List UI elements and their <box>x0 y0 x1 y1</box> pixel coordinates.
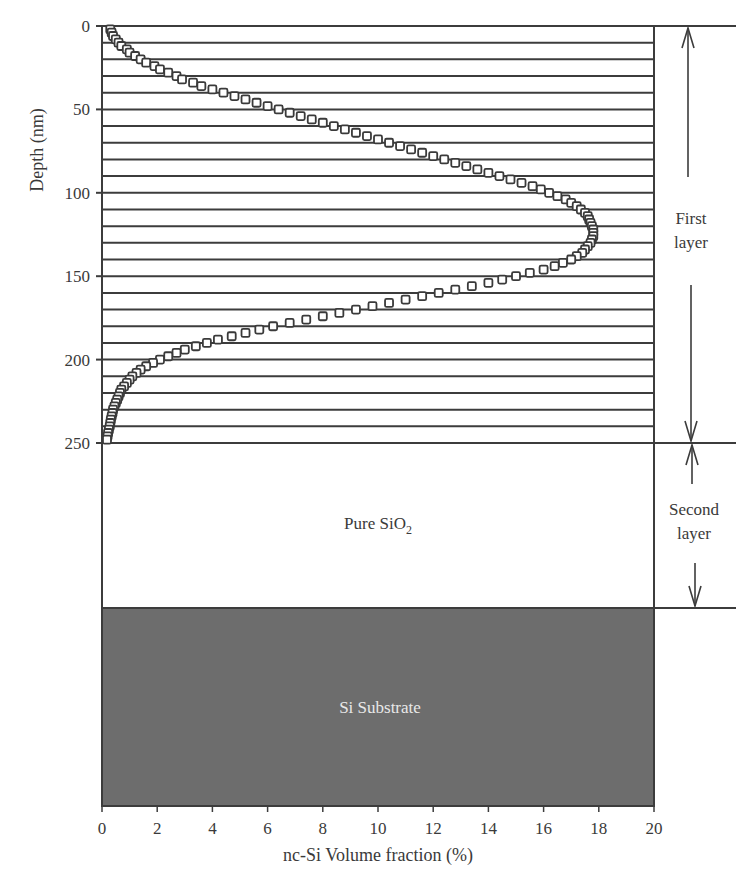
data-point-marker <box>484 279 492 287</box>
data-point-marker <box>418 149 426 157</box>
data-point-marker <box>286 319 294 327</box>
data-point-marker <box>473 165 481 173</box>
data-point-marker <box>551 262 559 270</box>
layer-annotations <box>682 28 701 606</box>
data-point-marker <box>484 169 492 177</box>
data-point-marker <box>335 309 343 317</box>
data-point-marker <box>302 316 310 324</box>
data-point-marker <box>189 79 197 87</box>
data-point-marker <box>418 292 426 300</box>
data-point-marker <box>319 119 327 127</box>
y-axis-title: Depth (nm) <box>27 108 48 191</box>
data-point-marker <box>537 185 545 193</box>
x-tick-label: 18 <box>590 819 607 838</box>
data-point-marker <box>506 175 514 183</box>
data-point-marker <box>164 352 172 360</box>
data-point-marker <box>407 145 415 153</box>
data-point-marker <box>518 179 526 187</box>
data-point-marker <box>264 102 272 110</box>
data-point-marker <box>402 296 410 304</box>
data-point-marker <box>526 269 534 277</box>
data-point-marker <box>319 312 327 320</box>
x-axis-title: nc-Si Volume fraction (%) <box>283 845 473 866</box>
x-tick-label: 14 <box>480 819 498 838</box>
data-point-marker <box>197 82 205 90</box>
x-tick-label: 6 <box>263 819 272 838</box>
data-point-marker <box>545 189 553 197</box>
data-point-marker <box>352 306 360 314</box>
y-tick-label: 250 <box>65 434 91 453</box>
data-point-marker <box>341 125 349 133</box>
data-point-marker <box>286 109 294 117</box>
x-axis-ticks: 02468101214161820 <box>98 806 663 838</box>
x-tick-label: 16 <box>535 819 552 838</box>
data-point-marker <box>228 332 236 340</box>
x-tick-label: 12 <box>425 819 442 838</box>
depth-profile-chart: 050100150200250 02468101214161820 nc-Si … <box>0 0 755 892</box>
data-point-marker <box>451 159 459 167</box>
second-layer-label-line1: Second <box>669 500 720 519</box>
depth-grid-lines <box>102 26 736 608</box>
data-point-marker <box>352 129 360 137</box>
data-point-marker <box>385 299 393 307</box>
data-point-marker <box>429 152 437 160</box>
y-tick-label: 200 <box>65 351 91 370</box>
si-substrate-label: Si Substrate <box>339 698 421 717</box>
first-layer-label-line2: layer <box>674 233 708 252</box>
x-tick-label: 4 <box>208 819 217 838</box>
data-point-marker <box>498 276 506 284</box>
y-axis-ticks: 050100150200250 <box>65 17 103 453</box>
data-point-marker <box>374 135 382 143</box>
data-point-marker <box>181 346 189 354</box>
data-point-marker <box>178 75 186 83</box>
y-tick-label: 50 <box>73 100 90 119</box>
data-point-marker <box>363 132 371 140</box>
data-point-marker <box>103 436 111 444</box>
data-point-marker <box>468 282 476 290</box>
data-point-marker <box>164 69 172 77</box>
data-point-marker <box>203 339 211 347</box>
data-point-marker <box>173 349 181 357</box>
y-tick-label: 150 <box>65 267 91 286</box>
data-point-marker <box>242 95 250 103</box>
data-point-marker <box>192 342 200 350</box>
x-tick-label: 2 <box>153 819 162 838</box>
data-point-marker <box>297 112 305 120</box>
data-point-marker <box>553 192 561 200</box>
data-point-marker <box>540 266 548 274</box>
data-point-marker <box>156 65 164 73</box>
data-point-marker <box>385 139 393 147</box>
data-point-marker <box>567 256 575 264</box>
data-point-marker <box>529 182 537 190</box>
pure-sio2-label: Pure SiO2 <box>344 514 412 537</box>
data-point-marker <box>269 322 277 330</box>
x-tick-label: 10 <box>370 819 387 838</box>
x-tick-label: 8 <box>319 819 328 838</box>
data-point-marker <box>559 259 567 267</box>
data-point-marker <box>208 85 216 93</box>
data-point-marker <box>219 89 227 97</box>
data-point-marker <box>255 326 263 334</box>
data-point-marker <box>462 162 470 170</box>
pure-sio2-subscript: 2 <box>406 523 412 537</box>
first-layer-label-line1: First <box>675 209 706 228</box>
data-point-marker <box>242 329 250 337</box>
data-point-marker <box>435 289 443 297</box>
data-point-marker <box>495 172 503 180</box>
data-markers <box>103 25 597 443</box>
data-point-marker <box>230 92 238 100</box>
x-tick-label: 20 <box>646 819 663 838</box>
data-point-marker <box>512 272 520 280</box>
data-point-marker <box>368 302 376 310</box>
data-point-marker <box>275 105 283 113</box>
data-point-marker <box>440 155 448 163</box>
data-point-marker <box>451 286 459 294</box>
data-point-marker <box>214 336 222 344</box>
data-point-marker <box>330 122 338 130</box>
data-point-marker <box>142 59 150 67</box>
second-layer-label-line2: layer <box>677 524 711 543</box>
data-point-marker <box>253 99 261 107</box>
y-tick-label: 100 <box>65 184 91 203</box>
data-point-marker <box>396 142 404 150</box>
pure-sio2-main: Pure SiO <box>344 514 406 533</box>
